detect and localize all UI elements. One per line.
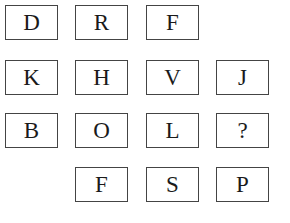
cell-r2-c2: H (75, 60, 128, 95)
cell-r3-c4-question: ? (216, 113, 269, 148)
cell-r4-c3: S (146, 167, 199, 202)
cell-r4-c2: F (75, 167, 128, 202)
cell-r3-c1: B (5, 113, 58, 148)
cell-r2-c1: K (5, 60, 58, 95)
cell-r2-c3: V (146, 60, 199, 95)
cell-r4-c4: P (216, 167, 269, 202)
cell-r2-c4: J (216, 60, 269, 95)
cell-r1-c3: F (146, 5, 199, 40)
cell-r1-c1: D (5, 5, 58, 40)
cell-r1-c2: R (75, 5, 128, 40)
cell-r3-c2: O (75, 113, 128, 148)
cell-r3-c3: L (146, 113, 199, 148)
